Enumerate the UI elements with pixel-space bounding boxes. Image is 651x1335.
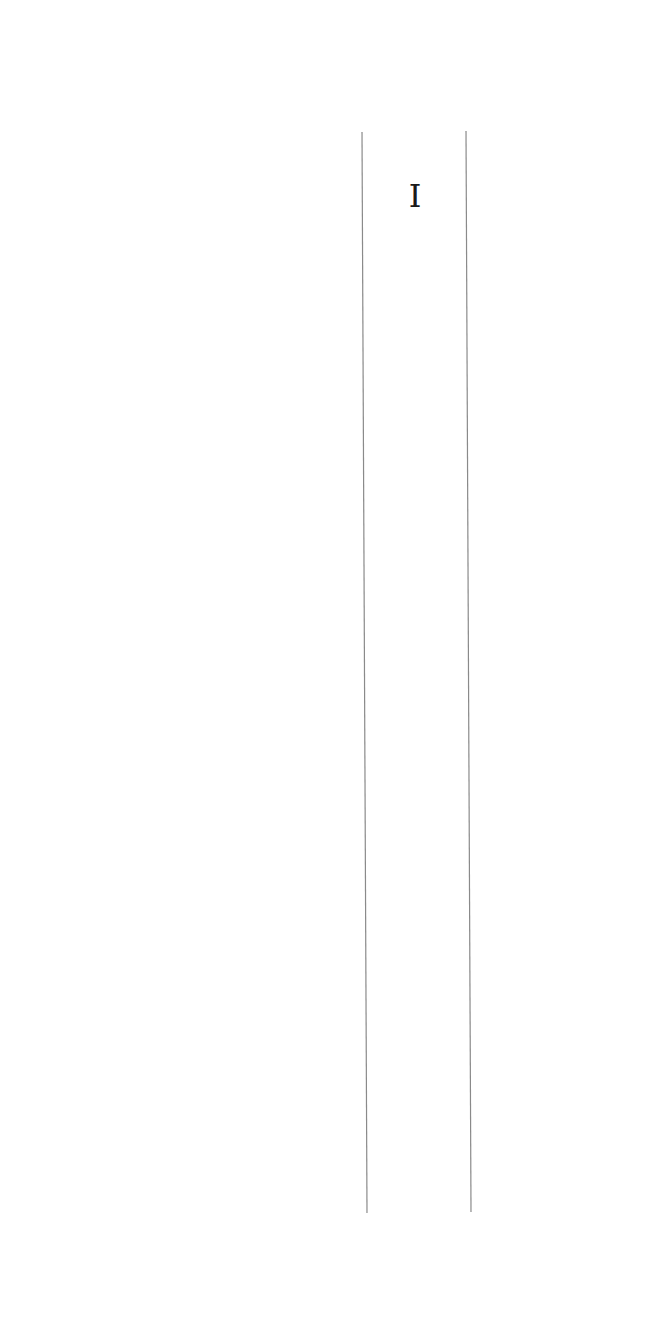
right-column-rule	[466, 131, 471, 1212]
document-page: I	[0, 0, 651, 1335]
column-header-roman-numeral: I	[395, 176, 435, 216]
column-rules	[0, 0, 651, 1335]
left-column-rule	[362, 132, 367, 1213]
